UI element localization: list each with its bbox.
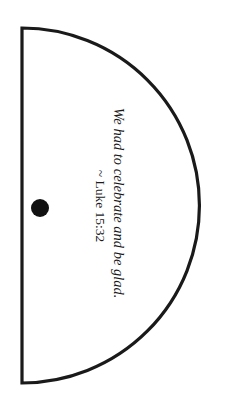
verse-reference: ~ Luke 15:32 [92, 170, 108, 243]
semicircle-template: We had to celebrate and be glad. ~ Luke … [0, 0, 225, 414]
verse-quote: We had to celebrate and be glad. [110, 108, 127, 299]
punch-hole-icon [31, 199, 49, 217]
